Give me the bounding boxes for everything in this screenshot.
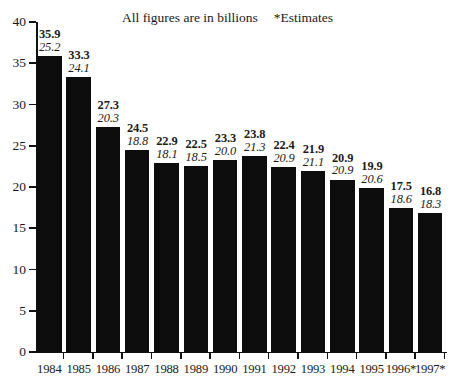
bar-value-secondary: 18.1 — [156, 148, 177, 161]
y-axis-tick-label: 5 — [0, 304, 26, 318]
bar-value-labels: 20.920.9 — [332, 152, 353, 178]
bar-value-primary: 17.5 — [391, 180, 412, 193]
bar-value-labels: 22.918.1 — [156, 135, 177, 161]
y-axis-tick-label: 25 — [0, 139, 26, 153]
x-axis-tick — [121, 352, 123, 359]
x-axis-tick — [92, 352, 94, 359]
y-axis-tick-label: 10 — [0, 263, 26, 277]
bar-value-secondary: 18.5 — [186, 151, 207, 164]
bar-value-primary: 23.3 — [215, 132, 236, 145]
y-axis-tick — [29, 269, 36, 271]
bar-value-secondary: 21.1 — [303, 156, 324, 169]
bar — [418, 213, 443, 352]
bar — [271, 167, 296, 352]
x-axis-tick — [297, 352, 299, 359]
bar-value-labels: 22.420.9 — [273, 139, 294, 165]
bar-value-secondary: 25.2 — [39, 41, 60, 54]
bar-value-secondary: 18.3 — [420, 198, 441, 211]
bar-value-secondary: 18.6 — [391, 193, 412, 206]
x-axis-tick — [444, 352, 446, 359]
x-axis-tick — [268, 352, 270, 359]
bar — [154, 163, 179, 352]
x-axis-tick — [414, 352, 416, 359]
bar-value-labels: 33.324.1 — [68, 49, 89, 75]
bar-value-labels: 27.320.3 — [98, 99, 119, 125]
bar-value-labels: 23.320.0 — [215, 132, 236, 158]
y-axis-tick-label: 30 — [0, 98, 26, 112]
x-axis-tick — [151, 352, 153, 359]
bar-value-labels: 21.921.1 — [303, 143, 324, 169]
y-axis-tick-label: 0 — [0, 345, 26, 359]
y-axis-tick — [29, 186, 36, 188]
bar-value-secondary: 18.8 — [127, 135, 148, 148]
bar-value-secondary: 20.9 — [273, 152, 294, 165]
bar-value-primary: 24.5 — [127, 122, 148, 135]
bar — [184, 166, 209, 352]
y-axis-tick — [29, 145, 36, 147]
bar-value-labels: 19.920.6 — [361, 160, 382, 186]
y-axis-tick-label: 15 — [0, 221, 26, 235]
bar-value-labels: 23.821.3 — [244, 128, 265, 154]
bar-value-secondary: 20.0 — [215, 145, 236, 158]
y-axis-tick-label: 20 — [0, 180, 26, 194]
y-axis-tick-label: 35 — [0, 56, 26, 70]
bar — [125, 150, 150, 352]
bar-value-primary: 19.9 — [361, 160, 382, 173]
x-axis-tick — [239, 352, 241, 359]
bar-value-secondary: 20.3 — [98, 112, 119, 125]
bar — [66, 77, 91, 352]
bar-value-secondary: 24.1 — [68, 62, 89, 75]
y-axis-tick — [29, 227, 36, 229]
bar-value-labels: 35.925.2 — [39, 28, 60, 54]
bar — [37, 56, 62, 352]
bar-value-labels: 22.518.5 — [186, 138, 207, 164]
y-axis-tick — [29, 310, 36, 312]
bar — [389, 208, 414, 352]
x-axis-tick — [63, 352, 65, 359]
bar-value-labels: 16.818.3 — [420, 185, 441, 211]
chart-page: All figures are in billions*Estimates 40… — [0, 0, 454, 389]
y-axis-tick — [29, 62, 36, 64]
bar-value-primary: 35.9 — [39, 28, 60, 41]
bar-value-secondary: 21.3 — [244, 141, 265, 154]
bar-value-primary: 27.3 — [98, 99, 119, 112]
y-axis-tick-label: 40 — [0, 15, 26, 29]
bar-value-labels: 24.518.8 — [127, 122, 148, 148]
x-axis-label: 1997* — [410, 362, 450, 376]
x-axis-tick — [180, 352, 182, 359]
bar — [330, 180, 355, 352]
x-axis-tick — [356, 352, 358, 359]
x-axis-tick — [385, 352, 387, 359]
x-axis-tick — [327, 352, 329, 359]
bar — [96, 127, 121, 352]
bar — [359, 188, 384, 352]
x-axis-tick — [209, 352, 211, 359]
bar — [213, 160, 238, 352]
bar-value-secondary: 20.6 — [361, 173, 382, 186]
y-axis-tick — [29, 351, 36, 353]
y-axis-tick — [29, 104, 36, 106]
bar-value-secondary: 20.9 — [332, 164, 353, 177]
bar — [242, 156, 267, 352]
y-axis-tick — [29, 21, 36, 23]
bar-value-primary: 23.8 — [244, 128, 265, 141]
bar — [301, 171, 326, 352]
bar-chart-plot-area: 4035302520151050 35.925.233.324.127.320.… — [0, 0, 454, 389]
bar-value-labels: 17.518.6 — [391, 180, 412, 206]
